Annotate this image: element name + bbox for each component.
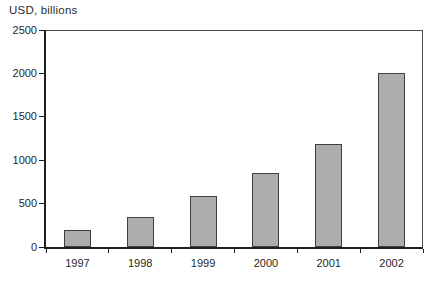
x-tick-mark xyxy=(46,249,47,253)
x-tick-label: 2000 xyxy=(235,257,298,270)
bar-chart: USD, billions 05001000150020002500199719… xyxy=(0,0,432,284)
x-tick-label: 2001 xyxy=(297,257,360,270)
x-tick-label: 1997 xyxy=(46,257,109,270)
y-axis-line xyxy=(44,30,46,249)
bar-2001 xyxy=(315,144,342,247)
bar-1997 xyxy=(64,230,91,247)
bar-1999 xyxy=(190,196,217,247)
y-tick-label: 1500 xyxy=(0,110,37,123)
x-tick-mark xyxy=(108,249,109,253)
x-tick-mark xyxy=(234,249,235,253)
plot-frame-right xyxy=(422,30,423,249)
y-tick-label: 2500 xyxy=(0,24,37,37)
bar-2002 xyxy=(378,73,405,247)
x-tick-mark xyxy=(171,249,172,253)
x-tick-mark xyxy=(423,249,424,253)
x-tick-label: 1999 xyxy=(172,257,235,270)
y-axis-unit-label: USD, billions xyxy=(9,4,77,16)
y-tick-label: 1000 xyxy=(0,154,37,167)
y-tick-label: 500 xyxy=(0,197,37,210)
bar-2000 xyxy=(252,173,279,247)
y-tick-label: 0 xyxy=(0,241,37,254)
bar-1998 xyxy=(127,217,154,247)
plot-frame-top xyxy=(46,30,423,31)
x-axis-line xyxy=(44,247,423,249)
y-tick-label: 2000 xyxy=(0,67,37,80)
x-tick-mark xyxy=(297,249,298,253)
x-tick-mark xyxy=(360,249,361,253)
x-tick-label: 2002 xyxy=(360,257,423,270)
x-tick-label: 1998 xyxy=(109,257,172,270)
